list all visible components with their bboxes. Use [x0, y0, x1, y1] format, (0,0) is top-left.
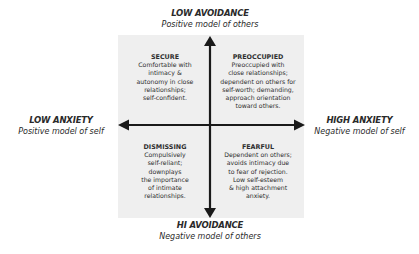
- axis-subtitle-right: Negative model of self: [300, 126, 419, 137]
- quadrant-title: PREOCCUPIED: [216, 53, 300, 61]
- quadrant-line: self-worth; demanding,: [216, 86, 300, 94]
- axis-title-left: LOW ANXIETY: [0, 115, 122, 126]
- quadrant-line: approach orientation: [216, 94, 300, 102]
- quadrant-line: toward others.: [216, 102, 300, 110]
- quadrant-line: of intimate: [124, 184, 206, 192]
- quadrant-fearful: FEARFUL Dependent on others; avoids inti…: [216, 143, 300, 200]
- quadrant-line: relationships.: [124, 192, 206, 200]
- quadrant-line: close relationships;: [216, 69, 300, 77]
- axis-subtitle-bottom: Negative model of others: [130, 231, 290, 242]
- quadrant-line: avoids intimacy due: [216, 159, 300, 167]
- quadrant-title: SECURE: [124, 53, 206, 61]
- quadrant-line: Low self-esteem: [216, 176, 300, 184]
- quadrant-line: to fear of rejection.: [216, 168, 300, 176]
- quadrant-title: FEARFUL: [216, 143, 300, 151]
- quadrant-line: intimacy &: [124, 69, 206, 77]
- quadrant-line: the importance: [124, 176, 206, 184]
- arrow-up-icon: [204, 36, 216, 46]
- horizontal-axis: [118, 120, 305, 131]
- quadrant-line: dependent on others for: [216, 78, 300, 86]
- quadrant-line: autonomy in close: [124, 78, 206, 86]
- quadrant-line: & high attachment: [216, 184, 300, 192]
- quadrant-line: Compulsively: [124, 151, 206, 159]
- axis-title-right: HIGH ANXIETY: [300, 115, 419, 126]
- quadrant-line: downplays: [124, 168, 206, 176]
- quadrant-secure: SECURE Comfortable with intimacy & auton…: [124, 53, 206, 102]
- quadrant-preoccupied: PREOCCUPIED Preoccupied with close relat…: [216, 53, 300, 110]
- axis-title-bottom: HI AVOIDANCE: [130, 220, 290, 231]
- quadrant-line: Preoccupied with: [216, 61, 300, 69]
- axis-label-right: HIGH ANXIETY Negative model of self: [300, 115, 419, 137]
- quadrant-line: relationships;: [124, 86, 206, 94]
- quadrant-title: DISMISSING: [124, 143, 206, 151]
- axis-subtitle-top: Positive model of others: [130, 19, 290, 30]
- axis-label-left: LOW ANXIETY Positive model of self: [0, 115, 122, 137]
- quadrant-line: Comfortable with: [124, 61, 206, 69]
- axis-label-top: LOW AVOIDANCE Positive model of others: [130, 8, 290, 30]
- quadrant-line: anxiety.: [216, 192, 300, 200]
- quadrant-line: Dependent on others;: [216, 151, 300, 159]
- axis-label-bottom: HI AVOIDANCE Negative model of others: [130, 220, 290, 242]
- axis-title-top: LOW AVOIDANCE: [130, 8, 290, 19]
- quadrant-dismissing: DISMISSING Compulsively self-reliant; do…: [124, 143, 206, 200]
- quadrant-line: self-confident.: [124, 94, 206, 102]
- axis-subtitle-left: Positive model of self: [0, 126, 122, 137]
- quadrant-line: self-reliant;: [124, 159, 206, 167]
- arrow-down-icon: [204, 208, 216, 218]
